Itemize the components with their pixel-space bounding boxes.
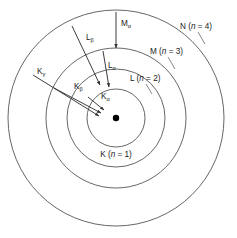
transition-greek-subscript: β (79, 86, 82, 92)
transition-label-L-beta: Lβ (86, 33, 94, 43)
transition-greek-subscript: α (128, 23, 132, 29)
quantum-number-value: = 4) (195, 22, 212, 31)
nucleus-dot (113, 115, 119, 121)
leader-line-m (168, 57, 175, 69)
shell-leader-lines-group (146, 32, 205, 94)
shell-letter: M ( (150, 47, 162, 56)
shell-letter: N ( (180, 22, 191, 31)
shell-label-l: L (n = 2) (130, 74, 161, 83)
transition-label-K-gamma: Kγ (37, 67, 45, 77)
transition-arrow-K-beta (54, 88, 101, 113)
shell-letter: L ( (130, 74, 140, 83)
quantum-number-value: = 2) (144, 74, 161, 83)
shell-label-k: K (n = 1) (100, 150, 132, 159)
transition-greek-subscript: α (113, 65, 117, 71)
shell-label-n: N (n = 4) (180, 22, 212, 31)
shell-label-m: M (n = 3) (150, 47, 183, 56)
transition-greek-subscript: α (106, 96, 110, 102)
quantum-number-value: = 3) (166, 47, 183, 56)
leader-line-n (198, 32, 205, 44)
transition-greek-subscript: γ (42, 71, 45, 77)
diagram-canvas: K (n = 1)L (n = 2)M (n = 3)N (n = 4) KαK… (0, 0, 237, 238)
transition-label-K-alpha: Kα (101, 92, 110, 102)
transition-label-L-alpha: Lα (108, 61, 117, 71)
transition-greek-subscript: β (91, 37, 94, 43)
leader-line-l (146, 84, 152, 94)
xray-shell-diagram: K (n = 1)L (n = 2)M (n = 3)N (n = 4) KαK… (0, 0, 237, 238)
shell-letter: K ( (100, 150, 111, 159)
transition-arrow-K-gamma (33, 75, 99, 116)
transition-label-M-alpha: Mα (121, 19, 132, 29)
quantum-number-value: = 1) (115, 150, 132, 159)
